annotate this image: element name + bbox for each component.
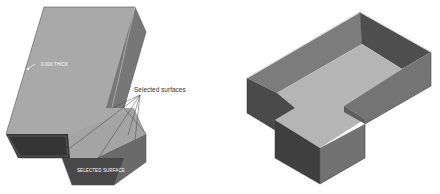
- thickness-marker: [27, 68, 29, 70]
- solid-model-drawing: 0.000 THICK Selected surfaces SELECTED S…: [0, 0, 220, 194]
- selected-surfaces-callout: Selected surfaces: [134, 86, 186, 93]
- thickness-tag: 0.000 THICK: [41, 62, 68, 67]
- figure-right-shelled-model: [230, 0, 440, 194]
- front-face-left: [6, 134, 70, 158]
- selected-surface-tag: SELECTED SURFACE: [77, 168, 125, 173]
- shelled-model-drawing: [230, 0, 440, 194]
- figure-left-solid-model: 0.000 THICK Selected surfaces SELECTED S…: [0, 0, 220, 194]
